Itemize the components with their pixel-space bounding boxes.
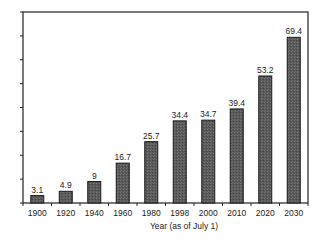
x-tick-label: 2020 [256, 208, 275, 218]
value-label: 39.4 [228, 98, 245, 108]
x-tick-label: 2030 [284, 208, 303, 218]
bar-1900 [31, 196, 44, 203]
bar-1940 [88, 182, 101, 203]
value-label: 4.9 [60, 180, 72, 190]
value-label: 3.1 [31, 185, 43, 195]
bar-2010 [230, 109, 243, 203]
x-tick-label: 1920 [56, 208, 75, 218]
bar-2020 [259, 76, 272, 203]
bar-1960 [116, 163, 129, 203]
value-label: 34.7 [200, 109, 217, 119]
bars [31, 37, 301, 203]
x-axis-title: Year (as of July 1) [0, 221, 324, 231]
bar-1920 [59, 191, 72, 203]
value-label: 53.2 [257, 65, 274, 75]
value-label: 16.7 [114, 152, 131, 162]
x-tick-label: 1900 [28, 208, 47, 218]
bar-2030 [287, 37, 300, 203]
value-label: 9 [92, 171, 97, 181]
bar-2000 [202, 120, 215, 203]
x-tick-label: 1960 [113, 208, 132, 218]
x-tick-label: 1980 [142, 208, 161, 218]
x-tick-label: 2000 [199, 208, 218, 218]
value-label: 34.4 [171, 110, 188, 120]
x-tick-label: 1998 [170, 208, 189, 218]
x-tick-label: 1940 [85, 208, 104, 218]
bar-1980 [145, 142, 158, 203]
x-tick-label: 2010 [227, 208, 246, 218]
value-label: 25.7 [143, 131, 160, 141]
value-label: 69.4 [285, 26, 302, 36]
bar-1998 [173, 121, 186, 203]
bar-chart: 3.14.9916.725.734.434.739.453.269.4 1900… [0, 0, 324, 244]
x-tick-labels: 1900192019401960198019982000201020202030 [28, 208, 304, 218]
